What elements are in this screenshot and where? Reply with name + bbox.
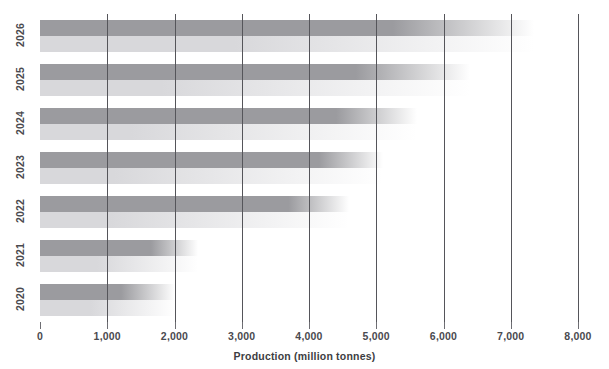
x-tick-label-5000: 5,000 — [363, 330, 390, 342]
bar-2025-lower — [40, 80, 470, 96]
gridline-5000 — [376, 14, 377, 322]
bar-2023-lower — [40, 168, 383, 184]
y-axis-label-2026: 2026 — [14, 15, 26, 55]
bar-2026-upper — [40, 20, 534, 36]
bar-2025-upper — [40, 64, 470, 80]
gridline-1000 — [107, 14, 108, 322]
gridline-4000 — [309, 14, 310, 322]
plot-area — [40, 14, 578, 322]
x-tick-label-1000: 1,000 — [94, 330, 121, 342]
y-axis-label-2021: 2021 — [14, 235, 26, 275]
y-axis-label-2022: 2022 — [14, 191, 26, 231]
gridline-3000 — [242, 14, 243, 322]
x-tick-7000 — [511, 322, 512, 329]
x-tick-label-6000: 6,000 — [430, 330, 457, 342]
x-tick-3000 — [242, 322, 243, 329]
x-tick-4000 — [309, 322, 310, 329]
y-axis-label-2020: 2020 — [14, 279, 26, 319]
x-tick-label-8000: 8,000 — [564, 330, 591, 342]
x-tick-label-7000: 7,000 — [497, 330, 524, 342]
y-axis-label-2024: 2024 — [14, 103, 26, 143]
bar-2022-upper — [40, 196, 349, 212]
bar-2023-upper — [40, 152, 383, 168]
x-tick-5000 — [376, 322, 377, 329]
gridline-8000 — [578, 14, 579, 322]
y-axis-label-2023: 2023 — [14, 147, 26, 187]
x-axis-title: Production (million tonnes) — [0, 350, 609, 362]
x-tick-2000 — [175, 322, 176, 329]
y-axis-label-2025: 2025 — [14, 59, 26, 99]
bar-2022-lower — [40, 212, 349, 228]
production-bar-chart: 01,0002,0003,0004,0005,0006,0007,0008,00… — [0, 0, 609, 369]
bar-2026-lower — [40, 36, 534, 52]
bar-2024-lower — [40, 124, 417, 140]
x-tick-8000 — [578, 322, 579, 329]
x-tick-6000 — [444, 322, 445, 329]
x-tick-0 — [40, 322, 41, 329]
bar-2024-upper — [40, 108, 417, 124]
x-tick-label-3000: 3,000 — [228, 330, 255, 342]
x-tick-label-4000: 4,000 — [295, 330, 322, 342]
gridline-7000 — [511, 14, 512, 322]
gridline-6000 — [444, 14, 445, 322]
x-tick-label-2000: 2,000 — [161, 330, 188, 342]
x-tick-label-0: 0 — [37, 330, 43, 342]
gridline-2000 — [175, 14, 176, 322]
x-tick-1000 — [107, 322, 108, 329]
